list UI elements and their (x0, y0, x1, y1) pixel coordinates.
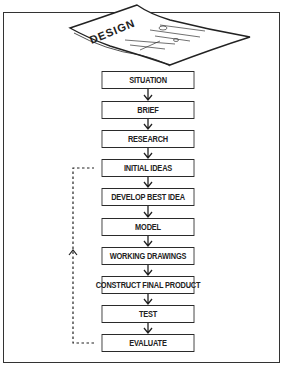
step-label: MODEL (135, 222, 161, 232)
step-test: TEST (102, 305, 195, 323)
step-develop-best-idea: DEVELOP BEST IDEA (102, 188, 195, 206)
step-initial-ideas: INITIAL IDEAS (102, 159, 195, 177)
step-label: WORKING DRAWINGS (110, 251, 186, 261)
step-label: INITIAL IDEAS (124, 163, 172, 173)
step-label: BRIEF (137, 105, 158, 115)
step-brief: BRIEF (102, 101, 195, 119)
step-model: MODEL (102, 218, 195, 236)
step-label: EVALUATE (129, 338, 166, 348)
step-label: DEVELOP BEST IDEA (111, 192, 185, 202)
design-paper-icon (0, 0, 286, 75)
step-label: TEST (139, 309, 157, 319)
step-label: CONSTRUCT FINAL PRODUCT (96, 280, 201, 290)
step-label: SITUATION (129, 75, 167, 85)
step-research: RESEARCH (102, 130, 195, 148)
step-situation: SITUATION (102, 71, 195, 89)
step-working-drawings: WORKING DRAWINGS (102, 247, 195, 265)
step-evaluate: EVALUATE (102, 334, 195, 352)
step-construct-final-product: CONSTRUCT FINAL PRODUCT (102, 276, 195, 294)
step-label: RESEARCH (128, 134, 168, 144)
